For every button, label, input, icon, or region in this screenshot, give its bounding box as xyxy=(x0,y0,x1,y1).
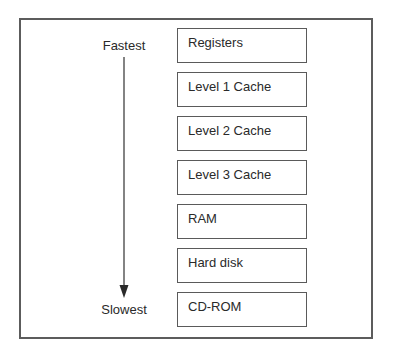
level-label: Hard disk xyxy=(188,255,243,270)
level-label: Level 3 Cache xyxy=(188,167,271,182)
level-label: RAM xyxy=(188,211,217,226)
level-label: Level 1 Cache xyxy=(188,79,271,94)
level-label: Registers xyxy=(188,35,243,50)
level-box-registers: Registers xyxy=(177,28,307,63)
level-box-l3-cache: Level 3 Cache xyxy=(177,160,307,195)
level-label: Level 2 Cache xyxy=(188,123,271,138)
slowest-label: Slowest xyxy=(101,302,147,317)
level-label: CD-ROM xyxy=(188,299,241,314)
level-box-l1-cache: Level 1 Cache xyxy=(177,72,307,107)
level-box-cd-rom: CD-ROM xyxy=(177,292,307,327)
level-box-hard-disk: Hard disk xyxy=(177,248,307,283)
level-box-ram: RAM xyxy=(177,204,307,239)
level-box-l2-cache: Level 2 Cache xyxy=(177,116,307,151)
